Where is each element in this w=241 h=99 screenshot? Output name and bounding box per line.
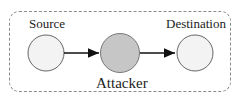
destination-label: Destination: [166, 16, 226, 32]
source-node: [28, 35, 64, 71]
destination-node: [177, 35, 213, 71]
attacker-label: Attacker: [96, 75, 148, 92]
source-label: Source: [29, 16, 65, 32]
attacker-node: [101, 34, 140, 73]
